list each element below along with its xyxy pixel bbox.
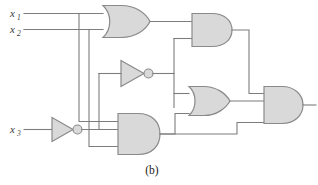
and-gate-upper-right-body [192,14,232,47]
input-label-x2: x 2 [9,23,21,38]
not-gate-middle-bubble [144,69,153,78]
not-gate-middle-body [121,61,144,87]
figure-caption: (b) [145,164,159,177]
circuit-diagram-canvas: x 1 x 2 x 3 [0,0,318,185]
and-gate-bottom-body [118,114,160,155]
wire-and2-out-to-or2 [160,114,189,135]
wire-and2-out-to-and3 [160,123,264,135]
input-label-x2-base: x [9,23,15,35]
input-label-x1-base: x [9,7,15,19]
and-gate-output-body [264,87,303,124]
or-gate-top-body [103,6,150,38]
and-gate-output [264,87,303,124]
input-label-x1-subscript: 1 [17,13,21,22]
and-gate-upper-right [192,14,232,47]
wire-and1-out [232,30,264,94]
and-gate-bottom [118,114,160,155]
logic-circuit-figure: x 1 x 2 x 3 [0,0,318,185]
not-gate-x3 [52,118,82,142]
not-gate-x3-bubble [73,125,82,134]
or-gate-middle-right-body [189,87,230,116]
input-label-x3-subscript: 3 [16,129,21,138]
input-label-x3-base: x [9,123,15,135]
or-gate-top [103,6,150,38]
input-label-x2-subscript: 2 [17,29,21,38]
or-gate-middle-right [189,87,230,116]
input-label-x3: x 3 [9,123,21,138]
input-label-x1: x 1 [9,7,21,22]
not-gate-middle [121,61,153,87]
not-gate-x3-body [52,118,73,142]
